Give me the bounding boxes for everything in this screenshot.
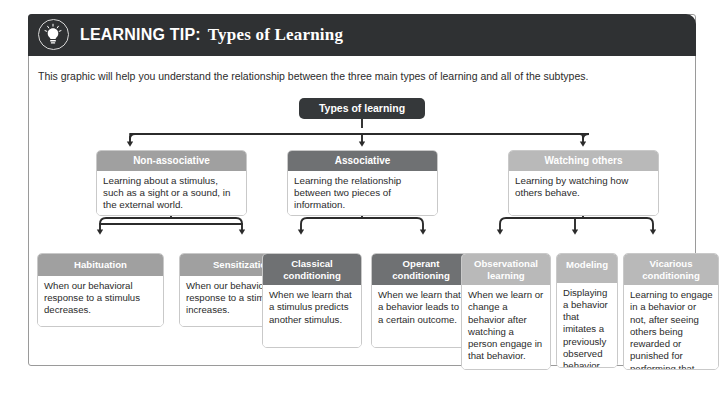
header-title: LEARNING TIP:Types of Learning (80, 25, 343, 45)
node-body: When we learn that a stimulus predicts a… (263, 285, 361, 347)
node-associative[interactable]: Associative Learning the relationship be… (287, 150, 438, 216)
node-root[interactable]: Types of learning (299, 98, 425, 119)
node-body: Learning the relationship between two pi… (288, 171, 437, 215)
node-title: Observational learning (462, 254, 550, 285)
intro-text: This graphic will help you understand th… (38, 69, 678, 83)
node-title: Vicarious conditioning (624, 254, 718, 285)
node-title: Modeling (557, 254, 617, 283)
node-body: Learning to engage in a behavior or not,… (624, 285, 718, 369)
node-body: When we learn or change a behavior after… (462, 285, 550, 369)
learning-tip-figure: LEARNING TIP:Types of Learning This grap… (0, 0, 724, 393)
header-label: LEARNING TIP: (80, 26, 201, 43)
node-title: Operant conditioning (372, 254, 470, 285)
node-title: Habituation (38, 254, 163, 276)
node-vicarious-conditioning[interactable]: Vicarious conditioning Learning to engag… (623, 253, 719, 370)
node-habituation[interactable]: Habituation When our behavioral response… (37, 253, 164, 327)
node-body: When our behavioral response to a stimul… (38, 276, 163, 326)
figure-header: LEARNING TIP:Types of Learning (28, 14, 696, 56)
node-title: Associative (288, 151, 437, 171)
node-body: Displaying a behavior that imitates a pr… (557, 283, 617, 367)
node-modeling[interactable]: Modeling Displaying a behavior that imit… (556, 253, 618, 368)
lightbulb-icon (38, 19, 69, 50)
node-body: Learning by watching how others behave. (509, 171, 658, 215)
node-classical-conditioning[interactable]: Classical conditioning When we learn tha… (262, 253, 362, 348)
node-body: Learning about a stimulus, such as a sig… (97, 171, 246, 215)
node-body: When we learn that a behavior leads to a… (372, 285, 470, 347)
node-title: Classical conditioning (263, 254, 361, 285)
node-operant-conditioning[interactable]: Operant conditioning When we learn that … (371, 253, 471, 348)
node-title: Non-associative (97, 151, 246, 171)
node-title: Watching others (509, 151, 658, 171)
node-non-associative[interactable]: Non-associative Learning about a stimulu… (96, 150, 247, 216)
node-observational-learning[interactable]: Observational learning When we learn or … (461, 253, 551, 370)
node-watching-others[interactable]: Watching others Learning by watching how… (508, 150, 659, 216)
header-subject: Types of Learning (208, 25, 343, 44)
